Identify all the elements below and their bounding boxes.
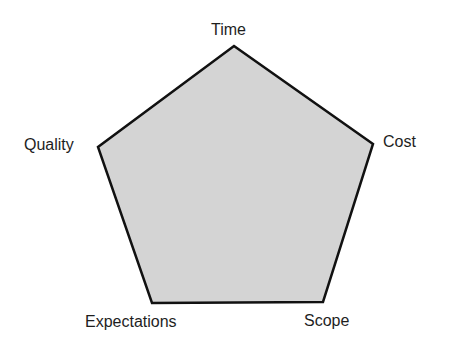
vertex-label-scope: Scope — [304, 312, 349, 330]
vertex-label-time: Time — [211, 21, 246, 39]
vertex-label-quality: Quality — [24, 136, 74, 154]
pentagon-shape — [98, 46, 373, 303]
vertex-label-expectations: Expectations — [85, 313, 177, 331]
vertex-label-cost: Cost — [383, 133, 416, 151]
pentagon-diagram — [0, 0, 452, 346]
